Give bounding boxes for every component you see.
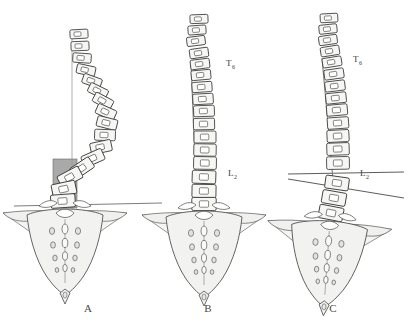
panel-c-label-t6-sub: 6 bbox=[359, 60, 362, 66]
panel-b-label-t6-sub: 6 bbox=[232, 64, 235, 70]
panel-b-label-l2-sub: 2 bbox=[234, 174, 237, 180]
panel-c-label-l2-sub: 2 bbox=[366, 174, 369, 180]
panel-b-caption: B bbox=[204, 302, 211, 314]
panel-c-caption: C bbox=[329, 302, 336, 314]
panel-c-label-l2-letter: L bbox=[360, 168, 366, 178]
spinal-alignment-figure: A bbox=[0, 0, 410, 324]
panel-a-caption: A bbox=[84, 302, 92, 314]
panel-b-label-l2-letter: L bbox=[228, 168, 234, 178]
